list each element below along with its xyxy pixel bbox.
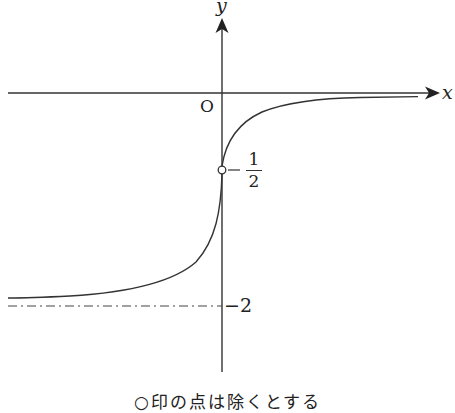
open-point-value-label: 1 2 (246, 151, 262, 190)
curve-left-branch (8, 174, 222, 298)
asymptote-label: −2 (224, 296, 252, 315)
fraction-denominator: 2 (249, 173, 260, 190)
fraction-numerator: 1 (249, 151, 260, 168)
y-axis-label: y (216, 0, 227, 15)
caption: ○印の点は除くとする (0, 388, 455, 413)
x-axis-label: x (442, 83, 453, 102)
open-point-marker (218, 166, 226, 174)
origin-label: O (200, 98, 214, 115)
